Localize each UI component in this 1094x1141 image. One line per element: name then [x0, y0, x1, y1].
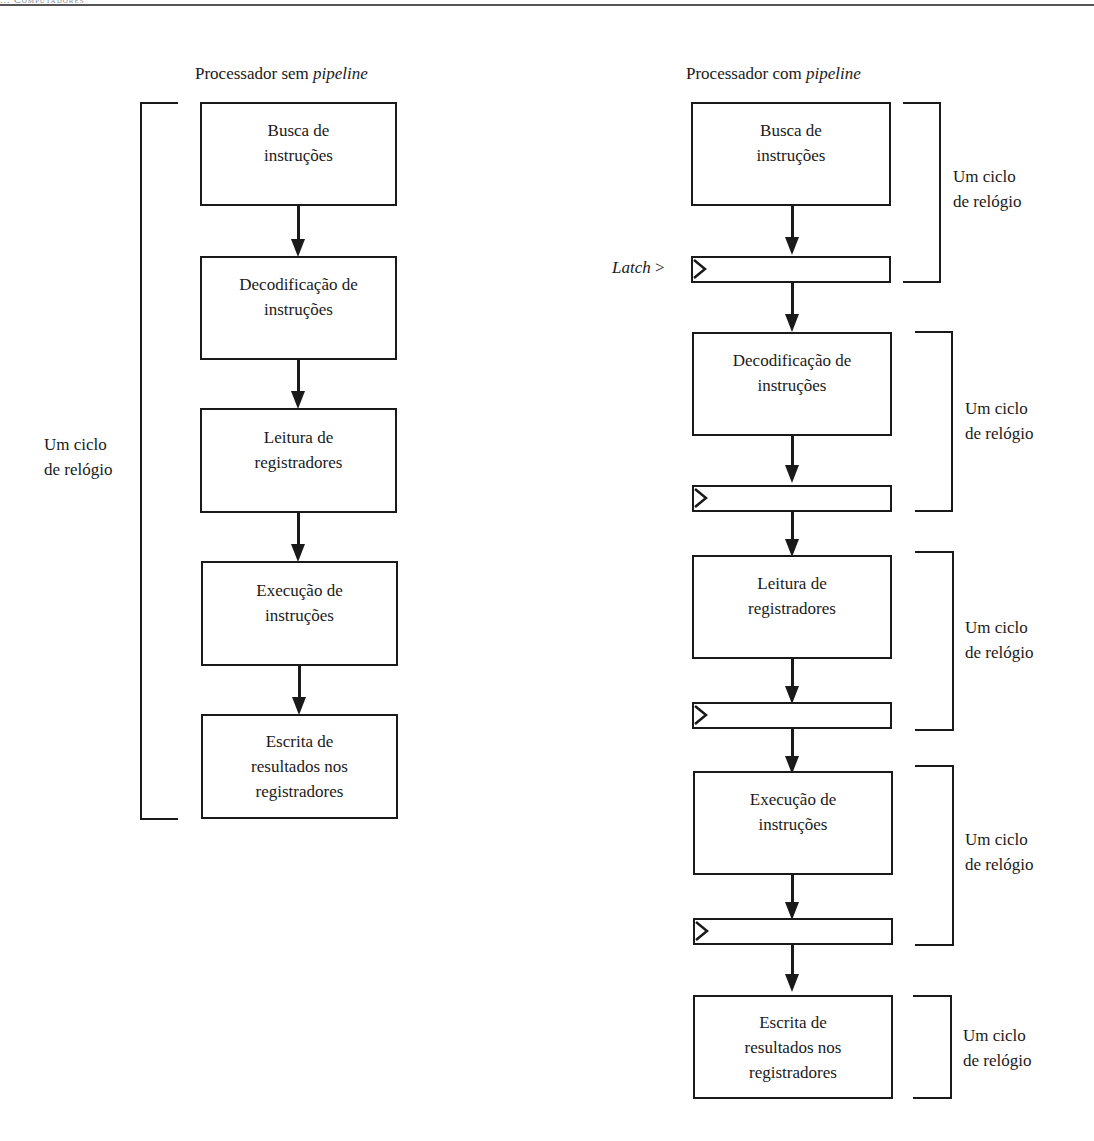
stage-label: Busca de instruções — [757, 118, 826, 168]
clock-bracket — [915, 765, 954, 946]
stage-label: Busca de instruções — [264, 118, 333, 168]
stage-label: Escrita de resultados nos registradores — [251, 729, 348, 804]
left-diagram-title: Processador sem pipeline — [195, 64, 368, 84]
stage-label: Leitura de registradores — [255, 425, 343, 475]
clock-input-icon — [693, 258, 713, 282]
clock-input-icon — [695, 920, 715, 944]
clock-bracket — [915, 551, 954, 731]
title-text: Processador com — [686, 64, 806, 83]
clock-input-icon — [694, 487, 714, 511]
latch-register — [691, 256, 891, 283]
title-text: Processador sem — [195, 64, 313, 83]
clock-bracket — [903, 102, 941, 283]
stage-label: Leitura de registradores — [748, 571, 836, 621]
clock-label: Um ciclo de relógio — [953, 164, 1021, 214]
left-clock-label: Um ciclo de relógio — [44, 432, 112, 482]
clock-label: Um ciclo de relógio — [963, 1023, 1031, 1073]
header-rule — [0, 4, 1094, 6]
latch-label-italic: Latch — [612, 258, 651, 277]
left-stage-execute: Execução de instruções — [201, 561, 398, 666]
clock-bracket — [913, 995, 952, 1099]
right-stage-execute: Execução de instruções — [693, 771, 893, 875]
stage-label: Execução de instruções — [750, 787, 836, 837]
right-stage-writeback: Escrita de resultados nos registradores — [693, 995, 893, 1099]
right-diagram-title: Processador com pipeline — [686, 64, 861, 84]
clock-input-icon — [694, 704, 714, 728]
latch-register — [692, 485, 892, 512]
clock-label: Um ciclo de relógio — [965, 615, 1033, 665]
latch-label: Latch > — [612, 258, 665, 278]
stage-label: Decodificação de instruções — [239, 272, 357, 322]
latch-register — [692, 702, 892, 729]
title-italic: pipeline — [806, 64, 861, 83]
left-stage-register-read: Leitura de registradores — [200, 408, 397, 513]
left-clock-bracket — [140, 102, 178, 820]
stage-label: Execução de instruções — [256, 578, 342, 628]
left-stage-fetch: Busca de instruções — [200, 102, 397, 206]
clock-label: Um ciclo de relógio — [965, 396, 1033, 446]
stage-label: Decodificação de instruções — [733, 348, 851, 398]
right-stage-register-read: Leitura de registradores — [692, 555, 892, 659]
latch-label-suffix: > — [651, 258, 665, 277]
title-italic: pipeline — [313, 64, 368, 83]
left-stage-decode: Decodificação de instruções — [200, 256, 397, 360]
left-stage-writeback: Escrita de resultados nos registradores — [201, 714, 398, 819]
latch-register — [693, 918, 893, 945]
stage-label: Escrita de resultados nos registradores — [745, 1010, 842, 1085]
right-stage-fetch: Busca de instruções — [691, 102, 891, 206]
right-stage-decode: Decodificação de instruções — [692, 332, 892, 436]
clock-bracket — [915, 331, 953, 512]
clock-label: Um ciclo de relógio — [965, 827, 1033, 877]
